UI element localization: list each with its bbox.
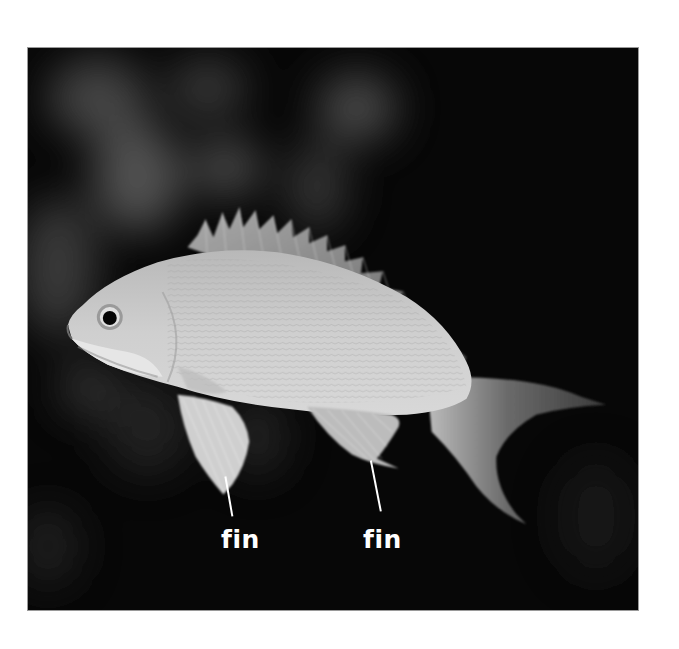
fish-illustration [28, 48, 638, 610]
fish-eye [97, 304, 123, 330]
pointer-line-anal [371, 461, 381, 512]
fin-label-pelvic: fin [221, 527, 260, 552]
fin-label-anal: fin [363, 527, 402, 552]
fish-photo [27, 47, 639, 611]
anal-fin [307, 407, 399, 469]
